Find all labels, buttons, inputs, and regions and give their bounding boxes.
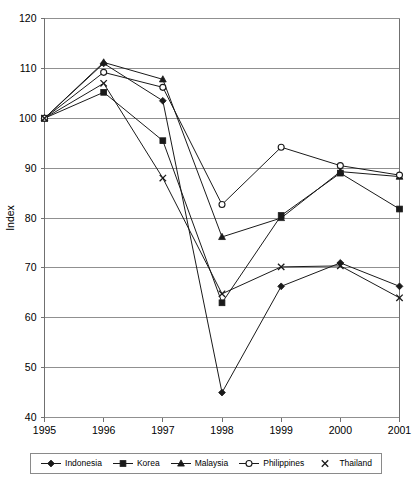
data-point-filled-square bbox=[397, 206, 403, 212]
data-point-cross-x bbox=[322, 460, 328, 466]
data-point-open-circle bbox=[246, 461, 252, 467]
data-point-filled-diamond bbox=[396, 283, 403, 290]
data-point-filled-diamond bbox=[48, 460, 55, 467]
y-tick-label: 80 bbox=[25, 212, 37, 224]
y-tick-label: 40 bbox=[25, 411, 37, 423]
data-point-open-circle bbox=[160, 84, 166, 90]
data-point-open-circle bbox=[219, 202, 225, 208]
legend-marker-filled-triangle-icon bbox=[170, 458, 192, 469]
data-point-open-circle bbox=[278, 144, 284, 150]
y-tick-label: 110 bbox=[20, 62, 37, 74]
legend-marker-filled-diamond-icon bbox=[40, 458, 62, 469]
legend-item-indonesia[interactable]: Indonesia bbox=[40, 458, 102, 469]
data-point-filled-diamond bbox=[219, 389, 226, 396]
legend-marker-open-circle-icon bbox=[238, 458, 260, 469]
legend-label: Thailand bbox=[339, 459, 372, 468]
y-axis-title: Index bbox=[4, 204, 16, 230]
legend-label: Malaysia bbox=[195, 459, 229, 468]
legend-item-thailand[interactable]: Thailand bbox=[314, 458, 372, 469]
data-point-filled-square bbox=[160, 138, 166, 144]
y-tick-label: 50 bbox=[25, 361, 37, 373]
data-point-cross-x bbox=[219, 291, 225, 297]
y-tick-label: 70 bbox=[25, 261, 37, 273]
data-point-open-circle bbox=[101, 69, 107, 75]
legend-item-korea[interactable]: Korea bbox=[112, 458, 160, 469]
data-point-open-circle bbox=[397, 172, 403, 178]
series-line-malaysia bbox=[45, 62, 400, 237]
x-tick-label: 1995 bbox=[33, 424, 57, 436]
legend-marker-cross-x-icon bbox=[314, 458, 336, 469]
data-point-filled-diamond bbox=[159, 97, 166, 104]
y-tick-label: 120 bbox=[19, 12, 37, 24]
x-tick-label: 2000 bbox=[329, 424, 353, 436]
y-tick-label: 60 bbox=[25, 311, 37, 323]
data-point-open-circle bbox=[337, 163, 343, 169]
legend-label: Philippines bbox=[263, 459, 304, 468]
x-tick-label: 1998 bbox=[210, 424, 234, 436]
y-tick-label: 90 bbox=[25, 162, 37, 174]
series-line-korea bbox=[45, 92, 400, 302]
legend-marker-filled-square-icon bbox=[112, 458, 134, 469]
data-point-filled-square bbox=[101, 89, 107, 95]
legend-label: Korea bbox=[137, 459, 160, 468]
x-tick-label: 2001 bbox=[388, 424, 412, 436]
x-tick-label: 1996 bbox=[92, 424, 116, 436]
series-line-indonesia bbox=[45, 63, 400, 392]
data-point-cross-x bbox=[160, 175, 166, 181]
y-tick-label: 100 bbox=[19, 112, 37, 124]
chart-legend: IndonesiaKoreaMalaysiaPhilippinesThailan… bbox=[30, 453, 382, 474]
x-tick-label: 1997 bbox=[151, 424, 175, 436]
data-point-filled-square bbox=[120, 461, 126, 467]
legend-item-philippines[interactable]: Philippines bbox=[238, 458, 304, 469]
legend-label: Indonesia bbox=[65, 459, 102, 468]
data-point-cross-x bbox=[100, 80, 106, 86]
line-chart: 4050607080901001101201995199619971998199… bbox=[0, 0, 416, 484]
x-tick-label: 1999 bbox=[269, 424, 293, 436]
plot-area: 4050607080901001101201995199619971998199… bbox=[0, 0, 416, 484]
data-point-filled-diamond bbox=[278, 283, 285, 290]
series-line-philippines bbox=[45, 72, 400, 204]
data-point-filled-square bbox=[219, 300, 225, 306]
legend-item-malaysia[interactable]: Malaysia bbox=[170, 458, 229, 469]
